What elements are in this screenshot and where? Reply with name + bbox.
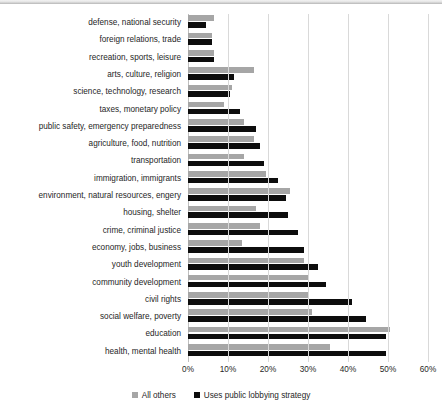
bar-all-others [188, 67, 254, 73]
category-label: crime, criminal justice [103, 222, 181, 239]
gridline [228, 14, 229, 362]
bar-all-others [188, 85, 232, 91]
bar-chart: defense, national securityforeign relati… [0, 4, 442, 413]
value-axis-tick: 50% [380, 365, 396, 374]
category-label: transportation [131, 152, 181, 169]
category-label: housing, shelter [123, 204, 181, 221]
legend-item[interactable]: Uses public lobbying strategy [194, 391, 311, 400]
gridline [308, 14, 309, 362]
plot-area [188, 14, 428, 362]
bar-uses-public-lobbying-strategy [188, 282, 326, 288]
bar-uses-public-lobbying-strategy [188, 57, 214, 63]
legend-label: All others [142, 391, 176, 400]
legend-label: Uses public lobbying strategy [204, 391, 311, 400]
value-axis-tick: 10% [220, 365, 236, 374]
bar-all-others [188, 119, 244, 125]
value-axis-tick: 30% [300, 365, 316, 374]
category-label: public safety, emergency preparedness [39, 118, 181, 135]
category-label: agriculture, food, nutrition [89, 135, 181, 152]
bar-all-others [188, 136, 254, 142]
bar-uses-public-lobbying-strategy [188, 230, 298, 236]
bar-uses-public-lobbying-strategy [188, 39, 212, 45]
category-label: social welfare, poverty [100, 308, 181, 325]
value-axis-tick: 0% [182, 365, 194, 374]
bar-all-others [188, 171, 266, 177]
value-axis-tick: 40% [340, 365, 356, 374]
bar-all-others [188, 223, 260, 229]
bar-all-others [188, 50, 214, 56]
category-label: environment, natural resources, engery [39, 187, 181, 204]
bar-uses-public-lobbying-strategy [188, 109, 240, 115]
value-axis-tick: 20% [260, 365, 276, 374]
category-label: education [145, 325, 181, 342]
category-label: health, mental health [105, 343, 181, 360]
bar-all-others [188, 188, 290, 194]
gridline [268, 14, 269, 362]
category-label: science, technology, research [73, 83, 181, 100]
gridline [388, 14, 389, 362]
bar-uses-public-lobbying-strategy [188, 247, 304, 253]
category-axis-labels: defense, national securityforeign relati… [0, 14, 185, 362]
bar-uses-public-lobbying-strategy [188, 316, 366, 322]
value-axis-tick-labels: 0%10%20%30%40%50%60% [188, 365, 438, 379]
bar-uses-public-lobbying-strategy [188, 161, 264, 167]
category-label: youth development [112, 256, 181, 273]
bar-all-others [188, 102, 224, 108]
bar-uses-public-lobbying-strategy [188, 334, 386, 340]
bar-uses-public-lobbying-strategy [188, 351, 386, 357]
category-label: economy, jobs, business [92, 239, 181, 256]
bar-uses-public-lobbying-strategy [188, 195, 286, 201]
category-label: immigration, immigrants [94, 170, 181, 187]
bar-all-others [188, 154, 244, 160]
bar-uses-public-lobbying-strategy [188, 264, 318, 270]
bar-uses-public-lobbying-strategy [188, 212, 288, 218]
bar-all-others [188, 15, 214, 21]
bar-all-others [188, 309, 312, 315]
bar-uses-public-lobbying-strategy [188, 91, 230, 97]
legend-swatch-all-others-icon [132, 392, 138, 398]
bar-uses-public-lobbying-strategy [188, 126, 256, 132]
bar-uses-public-lobbying-strategy [188, 299, 352, 305]
chart-legend: All othersUses public lobbying strategy [0, 387, 442, 403]
legend-item[interactable]: All others [132, 391, 176, 400]
category-label: community development [92, 274, 181, 291]
category-label: foreign relations, trade [100, 31, 181, 48]
bar-all-others [188, 206, 256, 212]
category-label: recreation, sports, leisure [89, 49, 181, 66]
bar-all-others [188, 292, 308, 298]
bar-uses-public-lobbying-strategy [188, 22, 206, 28]
gridline [348, 14, 349, 362]
value-axis-tick: 60% [420, 365, 436, 374]
bar-all-others [188, 240, 242, 246]
bar-uses-public-lobbying-strategy [188, 178, 278, 184]
bar-all-others [188, 258, 304, 264]
category-label: defense, national security [88, 14, 181, 31]
bar-uses-public-lobbying-strategy [188, 143, 260, 149]
bar-all-others [188, 275, 308, 281]
category-label: arts, culture, religion [107, 66, 181, 83]
legend-swatch-lobbying-icon [194, 392, 200, 398]
bar-all-others [188, 33, 212, 39]
category-label: civil rights [145, 291, 181, 308]
bar-all-others [188, 327, 390, 333]
category-label: taxes, monetary policy [100, 101, 181, 118]
gridline [428, 14, 429, 362]
